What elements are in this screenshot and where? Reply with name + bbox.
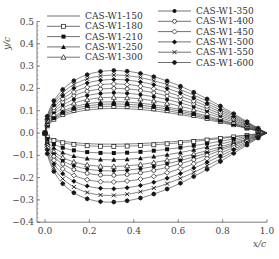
x-tick-label: 0.8 xyxy=(215,226,230,236)
legend-label: CAS-W1-300 xyxy=(85,52,143,62)
y-tick-label: −0.4 xyxy=(12,217,34,227)
y-tick-label: 0.2 xyxy=(20,83,34,93)
x-tick-label: 0.0 xyxy=(38,226,53,236)
legend-label: CAS-W1-180 xyxy=(85,21,143,31)
y-tick-label: −0.1 xyxy=(12,150,34,160)
legend-label: CAS-W1-400 xyxy=(196,16,254,26)
legend-label: CAS-W1-350 xyxy=(196,6,254,16)
y-tick-label: 0.5 xyxy=(20,17,35,27)
legend-label: CAS-W1-210 xyxy=(85,32,143,42)
x-axis-label: x/c xyxy=(253,239,266,249)
x-tick-label: 0.6 xyxy=(171,226,186,236)
legend-label: CAS-W1-550 xyxy=(196,47,254,57)
y-tick-label: −0.2 xyxy=(12,173,34,183)
legend-label: CAS-W1-500 xyxy=(196,37,254,47)
legend: CAS-W1-150CAS-W1-180CAS-W1-210CAS-W1-250… xyxy=(47,6,254,68)
legend-label: CAS-W1-600 xyxy=(196,58,254,68)
legend-label: CAS-W1-450 xyxy=(196,27,254,37)
legend-label: CAS-W1-250 xyxy=(85,42,143,52)
y-tick-label: 0.4 xyxy=(20,39,35,49)
y-tick-label: −0.3 xyxy=(12,195,34,205)
x-tick-label: 1.0 xyxy=(260,226,275,236)
airfoil-profile-chart: 0.50.40.30.20.10.0−0.1−0.2−0.3−0.40.00.2… xyxy=(0,0,279,259)
x-tick-label: 0.4 xyxy=(127,226,142,236)
x-tick-label: 0.2 xyxy=(82,226,96,236)
y-tick-label: 0.1 xyxy=(20,106,34,116)
legend-label: CAS-W1-150 xyxy=(85,11,143,21)
y-tick-label: 0.0 xyxy=(20,128,35,138)
y-axis-label: y/c xyxy=(2,37,12,51)
y-tick-label: 0.3 xyxy=(20,61,35,71)
